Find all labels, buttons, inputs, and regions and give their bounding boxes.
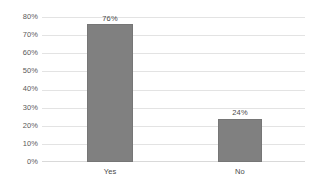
- y-axis-tick-label: 50%: [0, 67, 38, 75]
- y-axis: 80% 70% 60% 50% 40% 30% 20% 10% 0%: [0, 17, 38, 162]
- plot-area: 76% 24%: [42, 17, 305, 162]
- y-axis-tick-label: 0%: [0, 158, 38, 166]
- y-axis-tick-label: 30%: [0, 104, 38, 112]
- y-axis-tick-label: 10%: [0, 140, 38, 148]
- gridline: [42, 90, 305, 91]
- bar-no: [218, 119, 262, 163]
- bar-yes: [87, 24, 133, 162]
- x-axis-line: [42, 161, 305, 162]
- bar-value-label-yes: 76%: [87, 15, 133, 23]
- gridline: [42, 144, 305, 145]
- gridline: [42, 108, 305, 109]
- y-axis-tick-label: 40%: [0, 85, 38, 93]
- gridline: [42, 17, 305, 18]
- gridline: [42, 53, 305, 54]
- gridline: [42, 126, 305, 127]
- x-axis-category-label-no: No: [218, 167, 262, 176]
- y-axis-tick-label: 70%: [0, 31, 38, 39]
- bar-value-label-no: 24%: [218, 109, 262, 117]
- y-axis-tick-label: 20%: [0, 122, 38, 130]
- gridline: [42, 35, 305, 36]
- x-axis-category-label-yes: Yes: [87, 167, 133, 176]
- gridline: [42, 71, 305, 72]
- bar-chart: 80% 70% 60% 50% 40% 30% 20% 10% 0% 76% 2…: [0, 0, 315, 188]
- y-axis-tick-label: 60%: [0, 49, 38, 57]
- y-axis-tick-label: 80%: [0, 13, 38, 21]
